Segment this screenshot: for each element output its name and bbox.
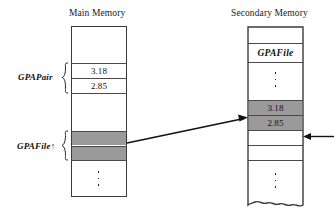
secondary-memory-cell-current-position (249, 130, 302, 145)
secondary-memory-cell-gpafile-name: GPAFile (249, 43, 302, 62)
secondary-memory-cell-gpa-1: 3.18 (249, 100, 302, 115)
secondary-memory-divider-2 (248, 62, 303, 63)
file-pointer-arrow-head (238, 115, 248, 122)
secondary-memory-cell-gpa-2: 2.85 (249, 115, 302, 130)
main-memory-cell-3 (72, 93, 126, 131)
secondary-memory-cell-0 (249, 28, 302, 43)
main-memory-divider-4 (71, 131, 127, 132)
secondary-memory-divider-4 (248, 115, 303, 116)
main-memory-ellipsis (97, 171, 100, 186)
main-memory-title: Main Memory (69, 8, 125, 18)
secondary-memory-divider-7 (248, 160, 303, 161)
main-memory-divider-2 (71, 78, 127, 79)
secondary-memory-ellipsis-lower (274, 173, 277, 188)
file-pointer-arrow-line (127, 119, 244, 144)
gpa-pair-brace (62, 63, 68, 93)
memory-diagram-figure: Main Memory 3.18 2.85 GPAPair GPAFile↑ S… (0, 0, 336, 218)
main-memory-cell-filebuf-2 (72, 146, 126, 160)
main-memory-divider-3 (71, 93, 127, 94)
secondary-memory-divider-6 (248, 145, 303, 146)
secondary-memory-divider-3 (248, 100, 303, 101)
gpa-file-brace (62, 131, 68, 160)
secondary-memory-title: Secondary Memory (231, 8, 308, 18)
gpa-file-pointer-label: GPAFile↑ (17, 141, 55, 151)
secondary-memory-ellipsis-upper (274, 72, 277, 87)
file-position-arrow-head (303, 133, 311, 140)
main-memory-cell-gpa-1: 3.18 (72, 63, 126, 78)
main-memory-divider-1 (71, 63, 127, 64)
secondary-memory-cell-6 (249, 145, 302, 160)
main-memory-divider-5 (71, 146, 127, 147)
secondary-memory-divider-5 (248, 130, 303, 131)
secondary-memory-divider-1 (248, 43, 303, 44)
main-memory-cell-filebuf-1 (72, 131, 126, 145)
gpa-pair-label: GPAPair (18, 72, 53, 82)
main-memory-divider-6 (71, 160, 127, 161)
main-memory-cell-0 (72, 27, 126, 63)
main-memory-cell-gpa-2: 2.85 (72, 78, 126, 93)
